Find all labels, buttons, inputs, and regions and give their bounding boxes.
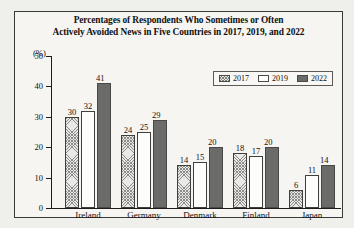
- bar-japan-2017: 6: [289, 190, 303, 208]
- category-label-finland: Finland: [225, 210, 287, 220]
- bar-value-label: 18: [236, 143, 245, 153]
- bar-value-label: 11: [308, 165, 316, 175]
- y-axis-tick-label: 50: [27, 51, 43, 61]
- chart-title: Percentages of Respondents Who Sometimes…: [15, 15, 342, 38]
- x-axis-line: [51, 208, 341, 209]
- bar-ireland-2022: 41: [97, 83, 111, 208]
- y-axis-tick-label: 0: [27, 203, 43, 213]
- chart-title-line1: Percentages of Respondents Who Sometimes…: [74, 15, 284, 25]
- bar-value-label: 20: [264, 137, 273, 147]
- bar-value-label: 6: [294, 180, 298, 190]
- bar-value-label: 32: [84, 101, 93, 111]
- bar-group: 181720: [233, 56, 279, 208]
- bar-value-label: 25: [140, 122, 149, 132]
- bar-ireland-2017: 30: [65, 117, 79, 208]
- bar-group: 303241: [65, 56, 111, 208]
- plot-area: 30324124252914152018172061114: [51, 56, 337, 208]
- y-axis-tick-label: 30: [27, 112, 43, 122]
- bar-denmark-2022: 20: [209, 147, 223, 208]
- category-label-denmark: Denmark: [169, 210, 231, 220]
- bar-denmark-2019: 15: [193, 162, 207, 208]
- bar-germany-2017: 24: [121, 135, 135, 208]
- bar-value-label: 14: [180, 155, 189, 165]
- y-axis-tick-label: 20: [27, 142, 43, 152]
- bar-group: 141520: [177, 56, 223, 208]
- bar-value-label: 14: [320, 155, 329, 165]
- bar-value-label: 15: [196, 152, 205, 162]
- category-label-ireland: Ireland: [57, 210, 119, 220]
- bar-value-label: 20: [208, 137, 217, 147]
- bar-value-label: 29: [152, 110, 161, 120]
- bar-group: 242529: [121, 56, 167, 208]
- bar-finland-2017: 18: [233, 153, 247, 208]
- bar-japan-2019: 11: [305, 175, 319, 208]
- bar-japan-2022: 14: [321, 165, 335, 208]
- bar-germany-2019: 25: [137, 132, 151, 208]
- bar-finland-2019: 17: [249, 156, 263, 208]
- bar-denmark-2017: 14: [177, 165, 191, 208]
- bar-value-label: 30: [68, 107, 77, 117]
- y-axis-tick-label: 40: [27, 81, 43, 91]
- bar-value-label: 17: [252, 146, 261, 156]
- bar-germany-2022: 29: [153, 120, 167, 208]
- chart-frame: Percentages of Respondents Who Sometimes…: [14, 11, 343, 218]
- chart-title-line2: Actively Avoided News in Five Countries …: [21, 27, 336, 39]
- bar-value-label: 41: [96, 73, 105, 83]
- bar-value-label: 24: [124, 125, 133, 135]
- bar-ireland-2019: 32: [81, 111, 95, 208]
- category-label-germany: Germany: [113, 210, 175, 220]
- bar-group: 61114: [289, 56, 335, 208]
- bar-finland-2022: 20: [265, 147, 279, 208]
- category-label-japan: Japan: [281, 210, 343, 220]
- y-axis-tick-label: 10: [27, 173, 43, 183]
- y-axis-tick: [46, 208, 51, 209]
